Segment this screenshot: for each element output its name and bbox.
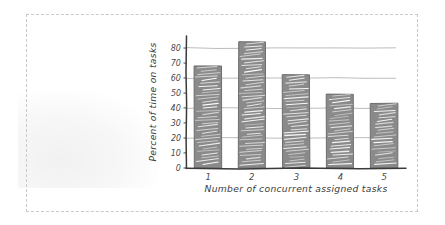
x-tick-labels: 12345 [206,172,387,183]
y-tick-label: 30 [171,119,181,128]
bars-group [194,42,398,168]
y-tick-label: 10 [171,149,181,158]
gridline [186,48,396,49]
figure-canvas: 01020304050607080 12345 Percent of time … [0,0,445,225]
x-tick-label: 2 [249,172,254,182]
bar [326,94,353,168]
y-tick-label: 60 [171,74,181,83]
y-axis-title: Percent of time on tasks [147,42,158,161]
y-tick-label: 40 [171,104,181,113]
x-tick-label: 5 [381,172,386,182]
y-axis-line [186,36,187,169]
x-axis-title: Number of concurrent assigned tasks [205,183,388,194]
y-tick-label: 0 [176,164,181,173]
bar [370,103,398,168]
x-tick-label: 4 [338,172,343,182]
x-tick-label: 3 [294,172,299,182]
bar [238,42,265,168]
bar-chart: 01020304050607080 12345 Percent of time … [0,0,445,225]
y-tick-labels: 01020304050607080 [171,44,187,173]
y-tick-label: 50 [171,89,181,98]
bar [194,66,222,168]
y-tick-label: 80 [171,44,181,53]
bar [282,75,310,168]
x-tick-label: 1 [206,172,211,182]
y-tick-label: 70 [171,59,181,68]
x-axis-line [186,168,406,169]
y-tick-label: 20 [171,134,181,143]
